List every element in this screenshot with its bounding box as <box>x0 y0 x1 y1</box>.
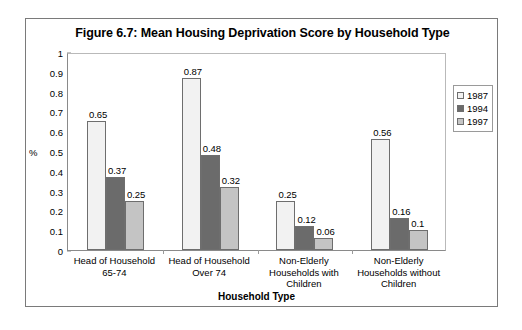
bar-value-label: 0.06 <box>316 226 335 237</box>
bar <box>314 238 333 250</box>
y-axis-tick-label: 0.8 <box>50 87 63 98</box>
figure-frame: Figure 6.7: Mean Housing Deprivation Sco… <box>25 18 498 307</box>
x-axis-category-label: Non-ElderlyHouseholds withChildren <box>257 255 352 290</box>
legend-label: 1994 <box>467 103 488 114</box>
bar <box>409 230 428 250</box>
x-axis-category-label-line: 65-74 <box>67 267 162 279</box>
bar <box>371 139 390 250</box>
x-axis-title: Household Type <box>67 291 446 302</box>
legend-item[interactable]: 1987 <box>457 89 488 102</box>
y-axis-tick-label: 1 <box>58 48 63 59</box>
x-axis-category-separator <box>163 250 164 254</box>
legend-swatch-icon <box>457 105 464 112</box>
bar <box>87 121 106 250</box>
bar-column: 0.1 <box>409 54 428 250</box>
bar-group-bars: 0.560.160.1 <box>352 54 447 250</box>
bar-column: 0.65 <box>87 54 106 250</box>
bar-value-label: 0.25 <box>127 189 146 200</box>
bar-group: 0.250.120.06 <box>258 54 353 250</box>
y-axis-tick-label: 0.9 <box>50 67 63 78</box>
bar <box>276 201 295 251</box>
y-axis: 10.90.80.70.60.50.40.30.20.10% <box>26 53 67 252</box>
bar <box>182 78 201 250</box>
bar-value-label: 0.25 <box>278 189 297 200</box>
legend-swatch-icon <box>457 92 464 99</box>
bar-column: 0.25 <box>276 54 295 250</box>
bar-value-label: 0.12 <box>297 214 316 225</box>
bar-value-label: 0.87 <box>184 66 203 77</box>
x-axis-category-label-line: Children <box>351 278 446 290</box>
x-axis-category-separator <box>258 250 259 254</box>
y-axis-tick-label: 0.3 <box>50 186 63 197</box>
y-axis-tick-label: 0.2 <box>50 206 63 217</box>
bar-group-bars: 0.870.480.32 <box>163 54 258 250</box>
bar-column: 0.12 <box>295 54 314 250</box>
x-axis-category-label: Head of HouseholdOver 74 <box>162 255 257 278</box>
bar-group-bars: 0.250.120.06 <box>258 54 353 250</box>
y-axis-tick-label: 0.7 <box>50 107 63 118</box>
legend-label: 1997 <box>467 116 488 127</box>
bar-column: 0.25 <box>125 54 144 250</box>
bar <box>106 177 125 250</box>
y-axis-tick-label: 0 <box>58 246 63 257</box>
x-axis-category-label-line: Over 74 <box>162 267 257 279</box>
x-axis-category-label-line: Non-Elderly <box>351 255 446 267</box>
bar <box>220 187 239 250</box>
bar <box>390 218 409 250</box>
x-axis-category-label-line: Head of Household <box>67 255 162 267</box>
legend-item[interactable]: 1994 <box>457 102 488 115</box>
bar-value-label: 0.48 <box>203 143 222 154</box>
y-axis-tick-label: 0.5 <box>50 147 63 158</box>
bar <box>295 226 314 250</box>
x-axis-category-separator <box>352 250 353 254</box>
bar-value-label: 0.65 <box>89 109 108 120</box>
x-axis-category-label-line: Head of Household <box>162 255 257 267</box>
y-axis-tick-label: 0.6 <box>50 127 63 138</box>
bar-group-bars: 0.650.370.25 <box>68 54 163 250</box>
bar-group: 0.870.480.32 <box>163 54 258 250</box>
bar <box>201 155 220 250</box>
x-axis-category-label: Non-ElderlyHouseholds withoutChildren <box>351 255 446 290</box>
bar-column: 0.16 <box>390 54 409 250</box>
bar-column: 0.32 <box>220 54 239 250</box>
bar-column: 0.37 <box>106 54 125 250</box>
bar-value-label: 0.37 <box>108 165 127 176</box>
chart-legend: 198719941997 <box>453 85 493 132</box>
bar-column: 0.87 <box>182 54 201 250</box>
bar-group: 0.560.160.1 <box>352 54 447 250</box>
bar-value-label: 0.16 <box>392 206 411 217</box>
bar-value-label: 0.1 <box>411 218 424 229</box>
x-axis-category-label-line: Households with <box>257 267 352 279</box>
legend-item[interactable]: 1997 <box>457 115 488 128</box>
bar-group: 0.650.370.25 <box>68 54 163 250</box>
x-axis-category-label-line: Children <box>257 278 352 290</box>
y-axis-title: % <box>29 147 37 158</box>
legend-label: 1987 <box>467 90 488 101</box>
x-axis-category-label-line: Non-Elderly <box>257 255 352 267</box>
chart-title: Figure 6.7: Mean Housing Deprivation Sco… <box>26 26 499 40</box>
bar-column: 0.56 <box>371 54 390 250</box>
legend-swatch-icon <box>457 118 464 125</box>
bar-column: 0.06 <box>314 54 333 250</box>
x-axis-category-label-line: Households without <box>351 267 446 279</box>
x-axis-category-label: Head of Household65-74 <box>67 255 162 278</box>
bar-value-label: 0.32 <box>222 175 241 186</box>
bar <box>125 201 144 251</box>
bar-column: 0.48 <box>201 54 220 250</box>
bar-value-label: 0.56 <box>373 127 392 138</box>
plot-area: 0.650.370.250.870.480.320.250.120.060.56… <box>67 53 446 251</box>
y-axis-tick-label: 0.1 <box>50 226 63 237</box>
y-axis-tick-label: 0.4 <box>50 166 63 177</box>
